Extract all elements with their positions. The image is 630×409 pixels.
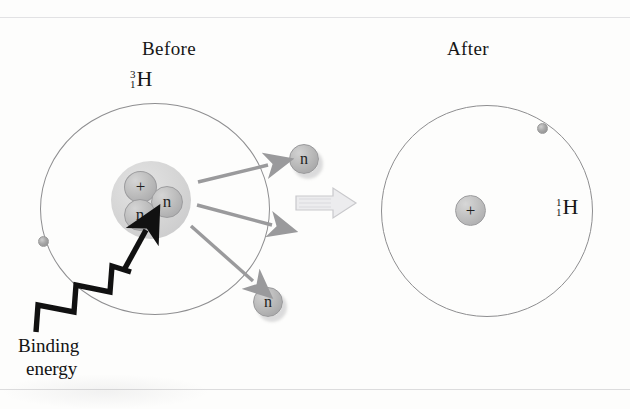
ejected-neutron-lower: n <box>253 287 283 317</box>
nucleus-before: + n n <box>111 161 191 239</box>
neutron-before-2: n <box>124 199 156 231</box>
isotope-numbers-before: 3 1 <box>130 69 136 90</box>
electron-before <box>38 236 49 247</box>
atomic-number-before: 1 <box>130 79 136 89</box>
isotope-label-before: 3 1 H <box>130 68 152 90</box>
mass-number-before: 3 <box>130 69 136 79</box>
figure-canvas: Before After 3 1 H 1 1 H + n n + n n <box>0 0 630 409</box>
element-symbol-before: H <box>137 68 153 90</box>
electron-after <box>537 123 548 134</box>
panel-caption-before: Before <box>142 38 196 60</box>
binding-energy-line-1: Binding <box>18 335 79 356</box>
panel-caption-after: After <box>447 38 489 60</box>
ejected-neutron-upper: n <box>289 144 319 174</box>
scan-rule-top <box>0 17 630 18</box>
scan-rule-bottom <box>0 389 630 390</box>
binding-energy-label: Binding energy <box>18 334 79 380</box>
binding-energy-line-2: energy <box>18 357 79 380</box>
transition-arrow <box>296 188 356 218</box>
electron-orbit-after <box>381 105 593 317</box>
proton-after: + <box>455 195 486 226</box>
